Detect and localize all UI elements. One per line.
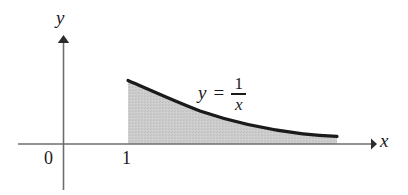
equation-equals-sign: = bbox=[212, 83, 225, 102]
curve-equation-label: y = 1 x bbox=[198, 74, 246, 112]
fraction-numerator: 1 bbox=[231, 75, 246, 93]
origin-tick-label: 0 bbox=[44, 149, 53, 167]
x-axis-arrowhead bbox=[371, 138, 377, 149]
fraction-one-over-x: 1 x bbox=[231, 75, 246, 113]
fraction-denominator: x bbox=[232, 95, 246, 113]
figure-area-under-curve: y x 0 1 y = 1 x bbox=[0, 0, 408, 195]
equation-left-side: y bbox=[198, 83, 206, 102]
y-axis-label: y bbox=[56, 8, 64, 27]
x-tick-label-one: 1 bbox=[122, 149, 131, 167]
x-axis-label: x bbox=[380, 131, 388, 150]
y-axis-arrowhead bbox=[58, 35, 69, 43]
